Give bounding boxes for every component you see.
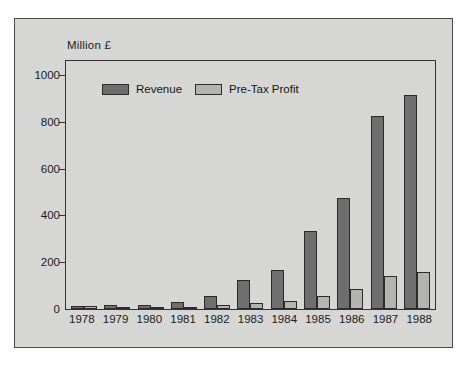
y-axis-tick-label: 600 — [41, 163, 60, 175]
y-axis-tick-label: 0 — [54, 303, 60, 315]
bar-group — [68, 63, 101, 310]
bar[interactable] — [117, 307, 130, 309]
bar[interactable] — [384, 276, 397, 309]
x-axis-tick-label: 1980 — [132, 313, 166, 325]
bar[interactable] — [284, 301, 297, 309]
y-axis-tick — [59, 215, 66, 216]
bar[interactable] — [104, 305, 117, 309]
bar[interactable] — [237, 280, 250, 309]
bar[interactable] — [371, 116, 384, 309]
x-axis-tick-label: 1978 — [65, 313, 99, 325]
x-axis-tick-label: 1985 — [301, 313, 335, 325]
bar[interactable] — [350, 289, 363, 309]
y-axis-tick — [59, 75, 66, 76]
x-axis-tick-label: 1981 — [166, 313, 200, 325]
bar[interactable] — [184, 307, 197, 309]
x-axis-labels: 1978197919801981198219831984198519861987… — [65, 313, 436, 325]
x-axis-tick-label: 1983 — [234, 313, 268, 325]
bar[interactable] — [171, 302, 184, 309]
bar-group — [400, 63, 433, 310]
bar[interactable] — [304, 231, 317, 309]
bar[interactable] — [151, 307, 164, 309]
bar-group — [367, 63, 400, 310]
bar[interactable] — [271, 270, 284, 309]
x-axis-tick-label: 1982 — [200, 313, 234, 325]
y-axis-tick — [59, 262, 66, 263]
x-axis-tick-label: 1988 — [402, 313, 436, 325]
y-axis-tick-label: 400 — [41, 209, 60, 221]
y-axis-tick — [59, 169, 66, 170]
bar-group — [300, 63, 333, 310]
bar[interactable] — [250, 303, 263, 309]
bar[interactable] — [204, 296, 217, 309]
plot-area: 02004006008001000 RevenuePre-Tax Profit — [65, 60, 436, 310]
y-axis-unit-label: Million £ — [67, 39, 111, 51]
chart-figure: Million £ 02004006008001000 RevenuePre-T… — [14, 18, 453, 348]
x-axis-tick-label: 1984 — [267, 313, 301, 325]
bar[interactable] — [404, 95, 417, 309]
bar-group — [267, 63, 300, 310]
bar[interactable] — [417, 272, 430, 309]
bar[interactable] — [317, 296, 330, 309]
y-axis-tick-label: 1000 — [34, 69, 60, 81]
y-axis-tick-label: 800 — [41, 116, 60, 128]
y-axis-tick-label: 200 — [41, 256, 60, 268]
bar-group — [101, 63, 134, 310]
bar[interactable] — [337, 198, 350, 309]
y-axis-tick — [59, 122, 66, 123]
bar[interactable] — [84, 306, 97, 309]
bar-groups — [68, 63, 434, 310]
x-axis-tick-label: 1986 — [335, 313, 369, 325]
x-axis-tick-label: 1987 — [369, 313, 403, 325]
bar-group — [334, 63, 367, 310]
bar-group — [167, 63, 200, 310]
x-axis-tick-label: 1979 — [99, 313, 133, 325]
bar-group — [234, 63, 267, 310]
bar[interactable] — [217, 305, 230, 309]
bar[interactable] — [71, 306, 84, 309]
bar[interactable] — [138, 305, 151, 309]
bar-group — [201, 63, 234, 310]
bar-group — [134, 63, 167, 310]
